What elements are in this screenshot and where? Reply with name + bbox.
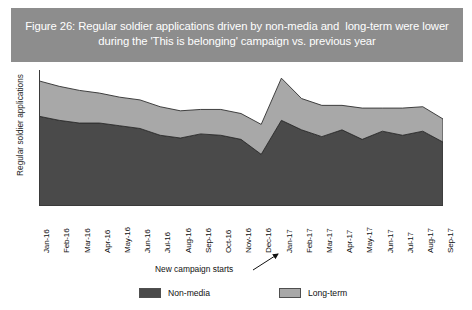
x-tick-label-sep-16: Sep-16 [204,228,213,253]
x-tick-label-apr-16: Apr-16 [103,230,112,253]
x-tick-label-nov-16: Nov-16 [244,228,253,253]
legend-swatch-non-media [139,288,161,298]
x-tick-label-jul-17: Jul-17 [406,232,415,253]
x-tick-label-jun-17: Jun-17 [386,229,395,253]
x-tick-label-aug-16: Aug-16 [184,228,193,253]
legend-swatch-long-term [279,288,301,298]
x-tick-label-mar-16: Mar-16 [83,229,92,253]
x-tick-label-may-16: May-16 [123,227,132,253]
legend-item-long-term[interactable]: Long-term [279,286,347,300]
x-tick-label-feb-17: Feb-17 [305,229,314,253]
area-series-group [39,78,443,206]
figure-title-banner: Figure 26: Regular soldier applications … [11,8,463,62]
x-tick-label-dec-16: Dec-16 [264,228,273,253]
stacked-area-chart [39,70,443,206]
x-tick-label-oct-16: Oct-16 [224,230,233,253]
campaign-start-annotation-label: New campaign starts [155,264,233,274]
chart-legend: Non-media Long-term [139,286,379,300]
x-tick-label-mar-17: Mar-17 [325,229,334,253]
page-title: Figure 26: Regular soldier applications … [17,19,457,50]
x-tick-label-sep-17: Sep-17 [446,228,455,253]
y-axis-title-container: Regular soldier applications [16,70,36,206]
legend-label-long-term: Long-term [308,288,347,298]
legend-item-non-media[interactable]: Non-media [139,286,210,300]
plot-area [39,70,443,206]
x-tick-label-jul-16: Jul-16 [163,232,172,253]
x-tick-label-jun-16: Jun-16 [143,229,152,253]
x-tick-label-feb-16: Feb-16 [62,229,71,253]
campaign-start-arrow [253,254,278,270]
y-axis-title: Regular soldier applications [15,25,25,225]
figure-container: Figure 26: Regular soldier applications … [0,0,472,310]
x-tick-label-apr-17: Apr-17 [345,230,354,253]
x-tick-label-may-17: May-17 [365,227,374,253]
x-tick-label-jan-17: Jan-17 [285,229,294,253]
x-axis-labels: Jan-16Feb-16Mar-16Apr-16May-16Jun-16Jul-… [39,209,443,255]
x-tick-label-jan-16: Jan-16 [42,229,51,253]
x-tick-label-aug-17: Aug-17 [426,228,435,253]
legend-label-non-media: Non-media [168,288,210,298]
